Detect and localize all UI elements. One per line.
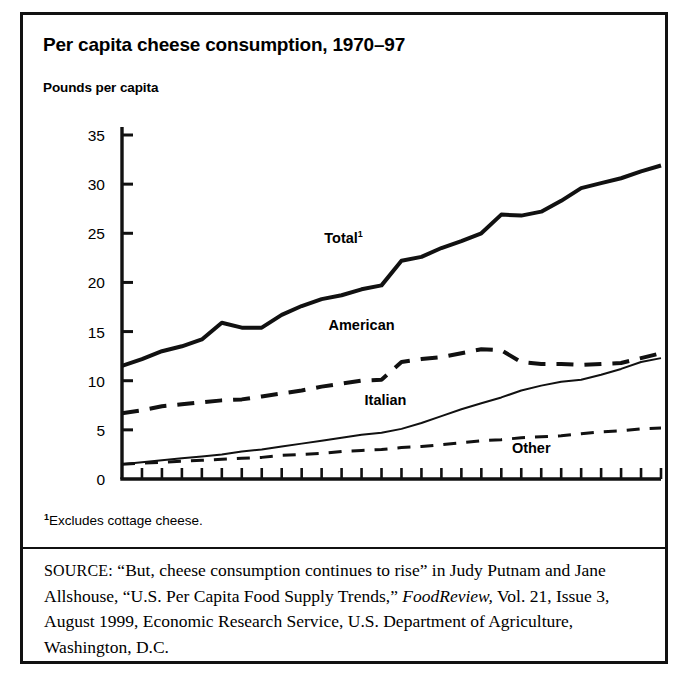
chart-plot-area: 0510152025303519707580859095Total1Americ… [23,103,665,493]
x-axis-tick-label: 85 [413,490,430,493]
chart-footnote: 1Excludes cottage cheese. [44,512,203,528]
x-axis-tick-label: 90 [513,490,531,493]
series-label-italian: Italian [365,392,407,408]
series-label-american: American [329,317,395,333]
source-publication-title: FoodReview, [402,586,493,606]
x-axis-tick-label: 95 [612,490,629,493]
chart-title: Per capita cheese consumption, 1970–97 [43,34,405,56]
y-axis-tick-label: 5 [96,422,105,439]
x-axis-tick-label: 75 [213,490,230,493]
y-axis-tick-label: 0 [96,471,105,488]
source-label: SOURCE: [44,562,113,579]
source-note: SOURCE: “But, cheese consumption continu… [44,558,656,660]
x-axis-tick-label: 80 [313,490,331,493]
y-axis-tick-label: 15 [88,324,105,341]
line-chart-svg: 0510152025303519707580859095Total1Americ… [23,103,665,493]
series-line-other [122,428,661,464]
y-axis-tick-label: 25 [88,225,105,242]
x-axis-tick-label: 1970 [116,490,151,493]
y-axis-unit-label: Pounds per capita [43,80,158,95]
series-label-total: Total1 [324,229,363,246]
horizontal-divider [23,547,665,549]
figure-frame: Per capita cheese consumption, 1970–97 P… [20,12,668,664]
series-label-superscript: 1 [358,229,363,239]
y-axis-tick-label: 30 [88,176,106,193]
series-label-other: Other [512,440,551,456]
series-line-italian [122,358,661,464]
y-axis-tick-label: 20 [88,274,106,291]
y-axis-tick-label: 10 [88,373,106,390]
series-line-total [122,165,661,366]
footnote-text: Excludes cottage cheese. [49,513,203,528]
y-axis-tick-label: 35 [88,127,105,144]
